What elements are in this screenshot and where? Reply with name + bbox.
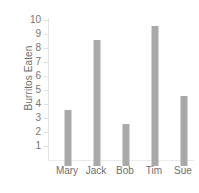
bar-slot-tim xyxy=(140,14,169,166)
bar-tim[interactable] xyxy=(151,26,158,166)
bar-bob[interactable] xyxy=(122,124,129,166)
y-tick-10: 10 xyxy=(0,13,48,27)
y-tick-label-4: 4 xyxy=(35,97,41,111)
x-tick-label-sue: Sue xyxy=(163,164,199,178)
y-tick-6: 6 xyxy=(0,69,48,83)
bar-mary[interactable] xyxy=(64,110,71,166)
plot-area xyxy=(48,14,194,166)
y-tick-label-5: 5 xyxy=(35,83,41,97)
y-tick-4: 4 xyxy=(0,97,48,111)
y-tick-9: 9 xyxy=(0,27,48,41)
y-tick-label-6: 6 xyxy=(35,69,41,83)
y-tick-label-1: 1 xyxy=(35,139,41,153)
bar-sue[interactable] xyxy=(180,96,187,166)
y-tick-7: 7 xyxy=(0,55,48,69)
y-tick-label-8: 8 xyxy=(35,41,41,55)
bar-chart: Burritos Eaten 1 2 3 4 5 6 7 8 9 10 xyxy=(0,0,199,193)
y-tick-1: 1 xyxy=(0,139,48,153)
y-tick-label-3: 3 xyxy=(35,111,41,125)
bar-slot-jack xyxy=(82,14,111,166)
y-tick-8: 8 xyxy=(0,41,48,55)
bar-slot-mary xyxy=(53,14,82,166)
bar-slot-sue xyxy=(169,14,198,166)
y-tick-label-10: 10 xyxy=(30,13,41,27)
bar-slot-bob xyxy=(111,14,140,166)
y-tick-label-7: 7 xyxy=(35,55,41,69)
y-tick-3: 3 xyxy=(0,111,48,125)
y-tick-2: 2 xyxy=(0,125,48,139)
y-tick-label-2: 2 xyxy=(35,125,41,139)
y-tick-label-9: 9 xyxy=(35,27,41,41)
bar-jack[interactable] xyxy=(93,40,100,166)
y-tick-5: 5 xyxy=(0,83,48,97)
